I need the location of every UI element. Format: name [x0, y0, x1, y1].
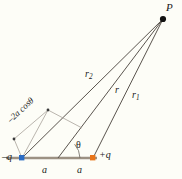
- label-angle-theta: θ: [76, 140, 81, 150]
- construction-line-parallel: [22, 110, 48, 158]
- label-r1-subscript: 1: [136, 94, 140, 102]
- dipole-figure: P r2 r r1 –q +q a a θ –2a cosθ: [0, 0, 182, 179]
- projection-point-dot: [13, 138, 16, 141]
- figure-canvas: [0, 0, 182, 179]
- point-p-dot: [160, 16, 166, 22]
- label-half-separation-left: a: [42, 165, 47, 175]
- label-negative-charge: –q: [2, 152, 12, 162]
- ray-r2-line: [22, 19, 163, 158]
- label-half-separation-right: a: [77, 165, 82, 175]
- label-r1: r1: [132, 90, 140, 102]
- label-positive-charge: +q: [99, 150, 111, 160]
- ray-r1-line: [93, 19, 163, 158]
- ray-r-line: [58, 19, 163, 158]
- negative-charge-dot: [19, 155, 24, 160]
- label-r2: r2: [85, 69, 93, 81]
- positive-charge-dot: [90, 155, 95, 160]
- label-r: r: [115, 85, 119, 95]
- label-r2-subscript: 2: [89, 73, 93, 81]
- construction-line-offset: [48, 110, 82, 128]
- foot-point-dot: [47, 109, 50, 112]
- label-point-p: P: [166, 2, 173, 13]
